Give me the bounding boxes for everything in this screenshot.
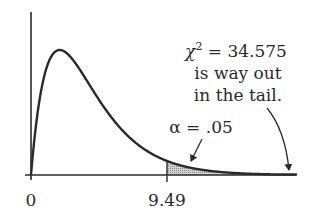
annotation-line-3: in the tail.	[194, 85, 282, 105]
chi-square-chart: 0 9.49 α = .05 χ2 = 34.575 is way out in…	[0, 0, 309, 219]
x-tick-label-critical: 9.49	[148, 190, 186, 210]
chi-square-value-label: χ2 = 34.575	[184, 40, 287, 61]
alpha-arrow	[191, 139, 202, 161]
alpha-label: α = .05	[169, 117, 233, 137]
tail-arrow	[267, 108, 289, 170]
annotation-line-2: is way out	[194, 63, 281, 83]
x-tick-label-0: 0	[26, 190, 37, 210]
